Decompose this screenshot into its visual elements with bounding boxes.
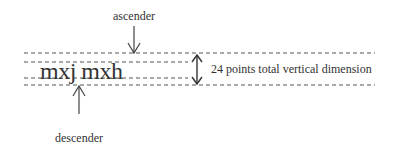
sample-text: mxj mxh [40,58,123,84]
descender-label: descender [55,131,103,145]
dimension-label: 24 points total vertical dimension [211,62,372,76]
font-metrics-diagram: mxj mxh ascender descender 24 points tot… [0,0,395,152]
ascender-label: ascender [113,9,155,23]
ascender-arrow-icon [128,26,140,53]
descender-arrow-icon [73,86,85,114]
double-arrow-icon [192,55,202,84]
